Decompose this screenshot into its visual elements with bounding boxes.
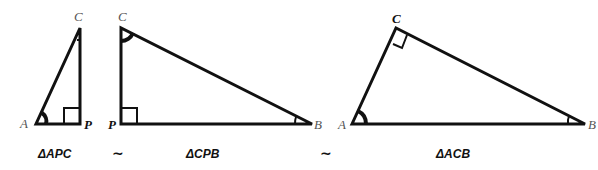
angle-marker-a (358, 111, 366, 124)
angle-marker-c (121, 33, 133, 41)
right-angle-marker (121, 108, 137, 124)
vertex-label-a: A (19, 116, 28, 131)
angle-marker-a (42, 113, 46, 124)
vertex-label-c: C (392, 11, 401, 26)
caption-cpb: ΔCPB (185, 147, 220, 161)
vertex-label-p: P (108, 117, 117, 132)
angle-marker-b (568, 116, 569, 124)
triangle-apc: A C P (19, 9, 93, 132)
caption-acb: ΔACB (435, 147, 470, 161)
vertex-label-c: C (74, 9, 83, 24)
angle-marker-b (295, 117, 296, 124)
similar-symbol-2: ~ (320, 145, 332, 161)
vertex-label-a: A (337, 117, 346, 132)
similar-symbol-1: ~ (112, 145, 124, 161)
vertex-label-b: B (314, 117, 322, 132)
caption-apc: ΔAPC (37, 147, 72, 161)
vertex-label-p: P (84, 117, 93, 132)
triangle-cpb: C P B (108, 9, 322, 132)
triangle-acb: A C B (337, 11, 596, 132)
right-angle-marker (393, 35, 407, 48)
vertex-label-b: B (588, 117, 596, 132)
right-angle-marker (64, 108, 80, 124)
vertex-label-c: C (118, 9, 127, 24)
similar-triangles-figure: A C P C P B A C B ΔAPC ~ ΔCPB ~ ΔACB (0, 0, 598, 170)
